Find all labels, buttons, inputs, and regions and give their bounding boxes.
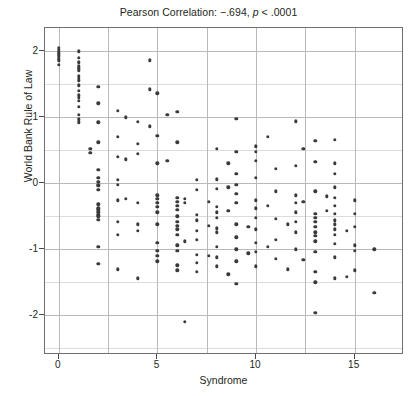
data-point (333, 196, 336, 199)
data-point (77, 49, 80, 52)
data-point (97, 215, 100, 218)
data-point (136, 142, 139, 145)
data-point (136, 201, 139, 204)
data-point (314, 160, 317, 163)
data-point (274, 217, 277, 220)
data-point (314, 281, 317, 284)
data-point (156, 162, 159, 165)
data-point (235, 183, 238, 186)
data-point (314, 212, 317, 215)
data-point (124, 158, 127, 161)
data-point (156, 201, 159, 204)
x-axis-tick-label: 15 (348, 359, 359, 370)
data-point (254, 199, 257, 202)
data-point (254, 250, 257, 253)
data-point (175, 233, 178, 236)
data-point (333, 228, 336, 231)
data-point (77, 89, 80, 92)
data-point (302, 258, 305, 261)
data-point (314, 220, 317, 223)
y-axis-tick-label: -1 (29, 243, 38, 254)
scatter-plot-figure: Pearson Correlation: −.694, p < .0001 21… (0, 0, 417, 396)
data-point (314, 139, 317, 142)
data-point (183, 240, 186, 243)
data-point (136, 120, 139, 123)
data-point (195, 270, 198, 273)
data-point (175, 141, 178, 144)
x-axis-tick-labels: 051015 (0, 359, 417, 375)
data-point (156, 193, 159, 196)
data-point (116, 155, 119, 158)
data-point (345, 229, 348, 232)
data-point (77, 121, 80, 124)
data-point (183, 201, 186, 204)
data-point (215, 211, 218, 214)
data-point (156, 134, 159, 137)
chart-title-suffix: < .0001 (259, 6, 298, 18)
data-point (215, 216, 218, 219)
data-point (235, 248, 238, 251)
data-point (136, 277, 139, 280)
data-point (353, 199, 356, 202)
data-point (156, 254, 159, 257)
chart-title-prefix: Pearson Correlation: −.694, (120, 6, 253, 18)
data-point (235, 192, 238, 195)
data-point (235, 282, 238, 285)
data-point (235, 236, 238, 239)
data-point (302, 147, 305, 150)
x-axis-label: Syndrome (44, 374, 403, 386)
data-point (235, 222, 238, 225)
data-point (353, 244, 356, 247)
data-point (274, 238, 277, 241)
data-point (116, 183, 119, 186)
data-point (175, 228, 178, 231)
data-point (183, 320, 186, 323)
data-point (274, 257, 277, 260)
data-point (333, 172, 336, 175)
data-point (235, 117, 238, 120)
data-point (77, 84, 80, 87)
data-point (183, 197, 186, 200)
data-point (148, 59, 151, 62)
data-point (97, 262, 100, 265)
data-point (175, 224, 178, 227)
data-point (286, 267, 289, 270)
data-point (274, 189, 277, 192)
data-point (175, 269, 178, 272)
data-point (215, 178, 218, 181)
data-point (156, 211, 159, 214)
data-point (116, 135, 119, 138)
data-point (156, 222, 159, 225)
data-point (254, 150, 257, 153)
data-point (215, 205, 218, 208)
data-point (215, 256, 218, 259)
data-point (156, 205, 159, 208)
data-point (77, 78, 80, 81)
data-point (215, 187, 218, 190)
data-point (286, 222, 289, 225)
data-point (345, 275, 348, 278)
data-point (353, 225, 356, 228)
data-point (175, 220, 178, 223)
data-point (333, 222, 336, 225)
data-point (294, 220, 297, 223)
data-point (246, 225, 249, 228)
data-point (136, 152, 139, 155)
data-point (314, 240, 317, 243)
data-point (254, 207, 257, 210)
data-point (333, 233, 336, 236)
data-point (227, 273, 230, 276)
data-point (314, 234, 317, 237)
data-point (333, 162, 336, 165)
data-point (97, 121, 100, 124)
data-point (97, 203, 100, 206)
x-axis-tick-label: 10 (249, 359, 260, 370)
data-point (97, 218, 100, 221)
data-point (195, 253, 198, 256)
data-point (215, 265, 218, 268)
data-point (136, 229, 139, 232)
x-axis-tick-label: 5 (154, 359, 160, 370)
data-point (207, 200, 210, 203)
data-point (136, 222, 139, 225)
data-point (156, 249, 159, 252)
